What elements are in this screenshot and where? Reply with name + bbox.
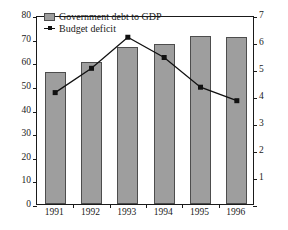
x-axis-tick-label: 1995 <box>183 208 217 218</box>
x-axis-tick-label: 1993 <box>110 208 144 218</box>
right-axis-tick <box>253 206 257 207</box>
line-marker <box>53 90 58 95</box>
line-marker <box>234 98 239 103</box>
right-axis-tick-label: 7 <box>259 11 279 21</box>
right-axis-tick-label: 3 <box>259 119 279 129</box>
left-axis-tick-label: 0 <box>8 200 31 210</box>
line-marker-swatch-icon <box>44 24 55 32</box>
legend-item-budget-deficit: Budget deficit <box>44 23 162 35</box>
line-marker <box>162 55 167 60</box>
bar-swatch-icon <box>44 13 55 21</box>
left-axis-tick-label: 70 <box>8 35 31 45</box>
left-axis-tick <box>33 206 37 207</box>
x-axis-tick-label: 1994 <box>146 208 180 218</box>
left-axis-tick-label: 20 <box>8 153 31 163</box>
plot-area <box>36 16 254 205</box>
left-axis-tick-label: 80 <box>8 11 31 21</box>
line-marker <box>89 66 94 71</box>
line-path-budget-deficit <box>55 37 237 100</box>
legend-label-budget-deficit: Budget deficit <box>59 23 116 35</box>
left-axis-tick-label: 50 <box>8 82 31 92</box>
right-axis-tick-label: 4 <box>259 92 279 102</box>
right-axis-tick-label: 2 <box>259 146 279 156</box>
x-axis-tick-label: 1991 <box>37 208 71 218</box>
left-axis-tick-label: 60 <box>8 58 31 68</box>
left-axis-tick-label: 40 <box>8 106 31 116</box>
line-marker <box>125 35 130 40</box>
x-axis-tick-label: 1996 <box>219 208 253 218</box>
x-axis-tick-label: 1992 <box>74 208 108 218</box>
left-axis-tick-label: 30 <box>8 129 31 139</box>
chart-legend: Government debt to GDP Budget deficit <box>44 11 162 34</box>
right-axis-tick-label: 1 <box>259 173 279 183</box>
chart-figure: 01020304050607080 1234567 19911992199319… <box>0 0 288 230</box>
line-series-budget-deficit <box>37 17 255 206</box>
right-axis-tick-label: 6 <box>259 38 279 48</box>
legend-label-government-debt-to-gdp: Government debt to GDP <box>59 11 162 23</box>
right-axis-tick-label: 5 <box>259 65 279 75</box>
left-axis-tick-label: 10 <box>8 176 31 186</box>
legend-item-government-debt-to-gdp: Government debt to GDP <box>44 11 162 23</box>
line-marker <box>198 85 203 90</box>
